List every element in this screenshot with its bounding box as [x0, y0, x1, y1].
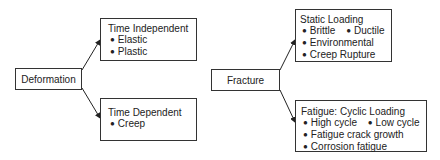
- list-item: Low cycle: [366, 117, 420, 129]
- static-loading-node: Static Loading Brittle Ductile Environme…: [295, 9, 392, 62]
- list-item: Elastic: [108, 34, 147, 46]
- fatigue-node: Fatigue: Cyclic Loading High cycle Low c…: [295, 100, 427, 152]
- fracture-label: Fracture: [227, 75, 264, 86]
- list-item: Ductile: [344, 25, 384, 37]
- node-title: Time Dependent: [108, 107, 196, 118]
- node-title: Fatigue: Cyclic Loading: [301, 106, 426, 117]
- list-item: Creep: [108, 118, 145, 130]
- list-item: Fatigue crack growth: [301, 129, 404, 141]
- deformation-label: Deformation: [21, 74, 75, 85]
- list-item: Environmental: [300, 37, 374, 49]
- fracture-node: Fracture: [211, 69, 280, 91]
- node-title: Static Loading: [300, 14, 391, 25]
- list-item: Creep Rupture: [300, 49, 375, 61]
- deformation-node: Deformation: [15, 68, 82, 90]
- node-title: Time Independent: [108, 23, 196, 34]
- list-item: Corrosion fatigue: [301, 141, 387, 153]
- time-independent-node: Time Independent Elastic Plastic: [100, 18, 197, 61]
- time-dependent-node: Time Dependent Creep: [100, 98, 197, 141]
- list-item: Brittle: [300, 25, 335, 37]
- list-item: Plastic: [108, 46, 147, 58]
- list-item: High cycle: [301, 117, 357, 129]
